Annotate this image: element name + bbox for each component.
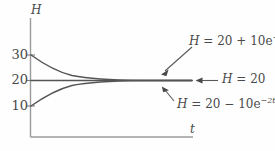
annotation-label-lower-curve: H = 20 − 10e−2t bbox=[177, 98, 275, 110]
y-tick-label-20: 20 bbox=[2, 73, 28, 86]
annotation-lower-lhs: H bbox=[177, 97, 187, 111]
annotation-upper-lhs: H bbox=[189, 34, 199, 48]
annotation-upper-base: 20 + 10e bbox=[217, 34, 272, 48]
annotation-upper-eq: = bbox=[203, 34, 213, 48]
annotation-lower-base: 20 − 10e bbox=[205, 97, 260, 111]
annotation-arrow-equilibrium bbox=[196, 78, 219, 84]
annotation-lower-eq: = bbox=[191, 97, 201, 111]
solution-curves-figure: 30 20 10 H t H = 20 + 10e−2t H = 20 H = … bbox=[0, 0, 275, 151]
y-axis-label: H bbox=[31, 4, 41, 16]
annotation-lower-exponent: −2t bbox=[261, 96, 275, 105]
annotation-label-upper-curve: H = 20 + 10e−2t bbox=[189, 35, 275, 47]
annotation-upper-exponent: −2t bbox=[273, 33, 275, 42]
x-axis-label: t bbox=[190, 123, 195, 135]
y-tick-label-30: 30 bbox=[2, 48, 28, 61]
annotation-label-equilibrium: H = 20 bbox=[222, 73, 265, 85]
annotation-equilibrium-eq: = bbox=[236, 72, 246, 86]
annotation-arrow-upper bbox=[161, 47, 192, 76]
annotation-equilibrium-lhs: H bbox=[222, 72, 232, 86]
annotation-arrow-lower bbox=[162, 87, 174, 102]
y-tick-label-10: 10 bbox=[2, 99, 28, 112]
annotation-equilibrium-base: 20 bbox=[250, 72, 265, 86]
